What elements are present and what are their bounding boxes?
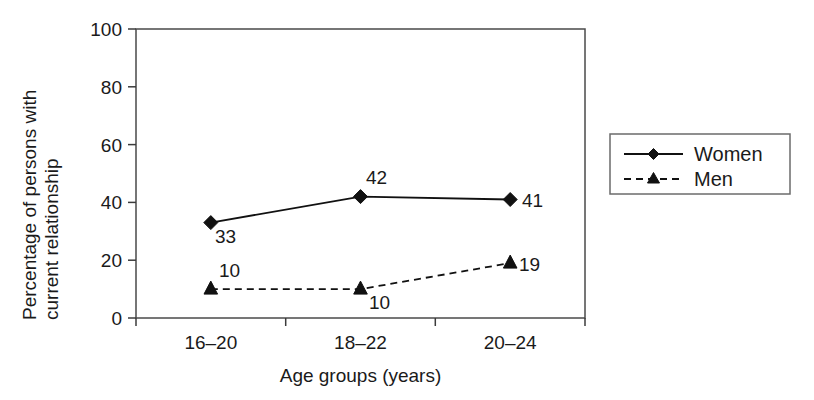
data-label-women-20-24: 41 bbox=[522, 190, 543, 211]
legend-label-men: Men bbox=[694, 168, 733, 190]
data-label-men-16-20: 10 bbox=[219, 260, 240, 281]
y-tick-label-100: 100 bbox=[90, 19, 122, 40]
x-tick-label-18-22: 18–22 bbox=[334, 332, 387, 353]
chart-figure: 100 80 60 40 20 0 Percentage of persons … bbox=[0, 0, 814, 400]
y-axis-ticks bbox=[128, 29, 136, 318]
y-axis-title-line1: Percentage of persons with bbox=[19, 90, 40, 320]
y-tick-label-80: 80 bbox=[101, 77, 122, 98]
data-label-women-18-22: 42 bbox=[366, 167, 387, 188]
plot-area-frame bbox=[136, 29, 585, 318]
y-tick-label-0: 0 bbox=[111, 308, 122, 329]
x-axis-title: Age groups (years) bbox=[280, 365, 442, 386]
data-label-women-16-20: 33 bbox=[215, 226, 236, 247]
chart-legend: Women Men bbox=[610, 134, 790, 194]
data-label-men-18-22: 10 bbox=[369, 292, 390, 313]
y-axis-title-line2: current relationship bbox=[41, 158, 62, 320]
y-tick-label-40: 40 bbox=[101, 192, 122, 213]
data-label-men-20-24: 19 bbox=[519, 254, 540, 275]
y-tick-label-60: 60 bbox=[101, 135, 122, 156]
line-chart-canvas: 100 80 60 40 20 0 Percentage of persons … bbox=[0, 0, 814, 400]
y-tick-label-20: 20 bbox=[101, 250, 122, 271]
x-tick-label-16-20: 16–20 bbox=[184, 332, 237, 353]
x-axis-ticks bbox=[136, 318, 585, 326]
x-tick-label-20-24: 20–24 bbox=[484, 332, 537, 353]
legend-label-women: Women bbox=[694, 143, 763, 165]
